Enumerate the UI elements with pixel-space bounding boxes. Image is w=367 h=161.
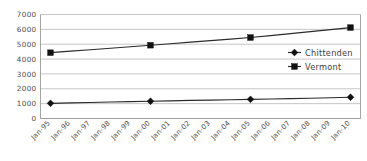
y-tick-label: 5000 — [17, 40, 37, 49]
legend-label: Chittenden — [305, 48, 353, 58]
data-point-marker-vermont — [48, 50, 54, 56]
y-tick-label: 7000 — [17, 10, 37, 19]
line-chart-figure: 01000200030004000500060007000 Jan-95Jan-… — [0, 0, 367, 161]
chart-canvas: 01000200030004000500060007000 Jan-95Jan-… — [0, 0, 367, 161]
y-tick-label: 4000 — [17, 55, 37, 64]
y-tick-label: 1000 — [17, 99, 37, 108]
legend-square-icon — [292, 64, 298, 70]
data-point-marker-vermont — [348, 25, 354, 31]
y-tick-label: 0 — [32, 114, 37, 123]
legend-label: Vermont — [305, 62, 342, 72]
y-tick-label: 6000 — [17, 25, 37, 34]
data-point-marker-vermont — [148, 42, 154, 48]
y-tick-label: 3000 — [17, 70, 37, 79]
data-point-marker-vermont — [248, 35, 254, 41]
y-tick-label: 2000 — [17, 84, 37, 93]
